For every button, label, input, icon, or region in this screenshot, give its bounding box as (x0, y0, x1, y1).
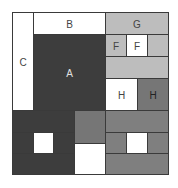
label-a: A (34, 67, 105, 78)
block-bl-top (12, 110, 75, 133)
block-br-mid-right (147, 132, 169, 154)
block-bl-mid-left (12, 132, 34, 154)
block-bl-bottom (12, 153, 75, 175)
label-h-right: H (138, 89, 168, 100)
block-br-top (105, 110, 169, 133)
block-mid-gray (74, 110, 106, 144)
block-light-band (105, 56, 169, 79)
label-f-left: F (106, 40, 126, 51)
block-br-bottom (105, 153, 169, 175)
block-g: G (105, 12, 169, 35)
block-a: A (33, 34, 106, 111)
label-f-right: F (127, 40, 147, 51)
block-bl-mid-right (53, 132, 75, 154)
label-b: B (34, 18, 105, 29)
block-f-right: F (126, 34, 148, 57)
block-b: B (33, 12, 106, 35)
block-mid-white (74, 143, 106, 175)
block-c: C (12, 12, 34, 111)
block-br-mid-white (126, 132, 148, 154)
block-f-left: F (105, 34, 127, 57)
label-g: G (106, 18, 168, 29)
block-h-right: H (137, 78, 169, 111)
block-f-filler (147, 34, 169, 57)
label-h-left: H (106, 89, 137, 100)
block-bl-mid-white (33, 132, 54, 154)
block-h-left: H (105, 78, 138, 111)
label-c: C (13, 56, 33, 67)
block-br-mid-left (105, 132, 127, 154)
